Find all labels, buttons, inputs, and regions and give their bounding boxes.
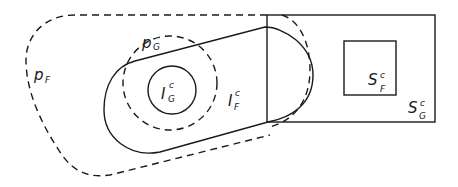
label-i-f-c: I c F <box>228 88 240 112</box>
label-p-f: p F <box>33 66 51 85</box>
svg-text:F: F <box>45 75 51 85</box>
svg-text:c: c <box>235 88 240 98</box>
svg-text:p: p <box>141 34 152 52</box>
svg-text:G: G <box>419 111 426 121</box>
label-i-g-c: I c G <box>161 80 175 104</box>
svg-text:I: I <box>228 92 233 110</box>
label-p-g: p G <box>141 34 160 52</box>
region-p-f-cap <box>270 15 310 127</box>
svg-text:S: S <box>408 99 418 117</box>
label-s-g-c: S c G <box>408 98 426 121</box>
region-i-g-c <box>148 66 196 114</box>
svg-text:c: c <box>380 70 385 80</box>
svg-text:F: F <box>380 84 386 94</box>
svg-text:F: F <box>234 102 240 112</box>
region-i-f-c <box>104 27 313 153</box>
svg-text:c: c <box>420 98 425 108</box>
svg-text:S: S <box>368 71 378 89</box>
svg-text:c: c <box>169 80 174 90</box>
svg-text:G: G <box>168 94 175 104</box>
svg-text:G: G <box>153 42 160 52</box>
svg-text:p: p <box>33 66 44 84</box>
set-diagram: p F p G I c G I c F S c F S c G <box>0 0 458 187</box>
label-s-f-c: S c F <box>368 70 386 94</box>
svg-text:I: I <box>161 85 166 103</box>
